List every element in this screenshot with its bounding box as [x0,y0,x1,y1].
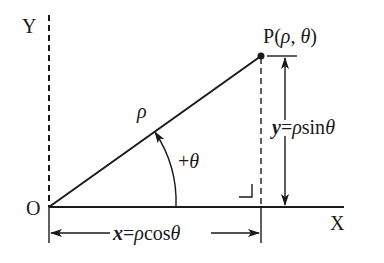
angle-label: +θ [178,150,199,172]
origin-label: O [26,197,40,219]
point-label: P(ρ, θ) [263,25,317,48]
x-axis-label: X [330,212,345,234]
y-formula-label: y=ρsinθ [270,116,335,139]
polar-coordinates-diagram: Y X O P(ρ, θ) ρ +θ y=ρsinθ x=ρcosθ [0,0,384,263]
radius-label: ρ [136,100,147,123]
y-axis-label: Y [22,15,36,37]
right-angle-mark [239,184,252,197]
angle-arc [155,132,176,207]
radius-line [49,56,261,207]
x-formula-label: x=ρcosθ [112,222,181,245]
